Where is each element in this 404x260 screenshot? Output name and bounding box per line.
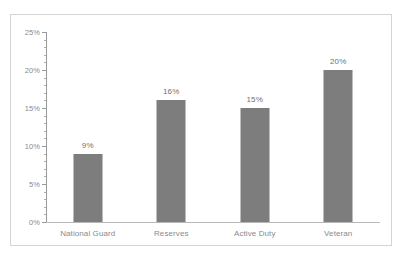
bar	[73, 154, 102, 222]
bar-group: 20%Veteran	[297, 32, 381, 222]
bar-value-label: 20%	[330, 57, 347, 66]
chart-frame: 0%5%10%15%20%25% 9%National Guard16%Rese…	[10, 14, 392, 246]
category-axis-line	[46, 222, 380, 223]
bar-group: 9%National Guard	[46, 32, 130, 222]
y-axis-tick-label: 15%	[25, 104, 40, 113]
plot-area: 0%5%10%15%20%25% 9%National Guard16%Rese…	[46, 32, 380, 222]
category-axis-label: Active Duty	[234, 229, 276, 238]
category-axis-label: Veteran	[324, 229, 352, 238]
category-axis-label: Reserves	[154, 229, 189, 238]
y-axis-tick-label: 5%	[29, 180, 40, 189]
y-axis-tick-label: 25%	[25, 28, 40, 37]
y-axis-tick-label: 10%	[25, 142, 40, 151]
bar-value-label: 15%	[246, 95, 263, 104]
bar-value-label: 16%	[163, 87, 180, 96]
bar	[240, 108, 269, 222]
category-axis-label: National Guard	[60, 229, 115, 238]
bar-value-label: 9%	[82, 141, 94, 150]
bar-group: 15%Active Duty	[213, 32, 297, 222]
bar-group: 16%Reserves	[130, 32, 214, 222]
y-axis-tick-label: 20%	[25, 66, 40, 75]
y-axis-tick	[42, 222, 46, 223]
bar	[324, 70, 353, 222]
bar	[157, 100, 186, 222]
y-axis-tick-label: 0%	[29, 218, 40, 227]
